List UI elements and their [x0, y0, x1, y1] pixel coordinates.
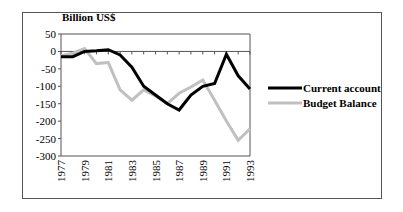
line-chart: Billion US$ 500-50-100-150-200-250-300 1…	[0, 0, 403, 212]
y-tick-label: -200	[36, 115, 57, 127]
x-tick-label: 1983	[126, 160, 138, 183]
y-tick-label: 0	[51, 45, 57, 57]
x-axis: 197719791981198319851987198919911993	[55, 51, 256, 182]
x-tick-label: 1981	[102, 160, 114, 182]
x-tick-label: 1985	[150, 160, 162, 183]
plot-lines	[61, 49, 250, 141]
chart-title: Billion US$	[62, 11, 116, 23]
series-line-current-account	[61, 50, 250, 110]
y-tick-label: 50	[45, 28, 57, 40]
y-tick-label: -100	[36, 80, 57, 92]
y-tick-label: -250	[36, 133, 57, 145]
x-tick-label: 1977	[55, 160, 67, 183]
x-tick-label: 1991	[220, 160, 232, 182]
legend: Current account Budget Balance	[268, 82, 381, 109]
legend-label-current-account: Current account	[303, 82, 381, 94]
y-axis: 500-50-100-150-200-250-300	[36, 28, 250, 162]
legend-label-budget-balance: Budget Balance	[303, 97, 377, 109]
y-tick-label: -150	[36, 98, 57, 110]
y-tick-label: -50	[41, 63, 56, 75]
x-tick-label: 1989	[197, 160, 209, 183]
x-tick-label: 1979	[79, 160, 91, 183]
x-tick-label: 1993	[244, 160, 256, 183]
y-tick-label: -300	[36, 150, 57, 162]
x-tick-label: 1987	[173, 160, 185, 183]
